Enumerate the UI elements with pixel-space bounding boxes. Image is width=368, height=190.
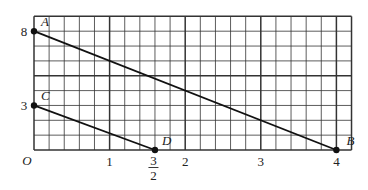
x-tick-label: 1 — [106, 154, 113, 169]
point-label-d: D — [161, 133, 172, 148]
point-c — [31, 102, 37, 108]
coordinate-grid-figure: O ABCD83123432 — [0, 0, 368, 190]
point-b — [333, 147, 339, 153]
axis-labels: O ABCD83123432 — [21, 14, 355, 183]
y-tick-label: 3 — [21, 98, 28, 113]
y-tick-label: 8 — [21, 24, 28, 39]
grid — [34, 16, 352, 150]
x-tick-label: 3 — [258, 154, 265, 169]
fraction-numerator: 3 — [150, 153, 157, 168]
x-tick-label: 2 — [182, 154, 189, 169]
origin-label: O — [22, 153, 32, 168]
point-label-b: B — [346, 133, 354, 148]
fraction-denominator: 2 — [150, 168, 157, 183]
point-label-c: C — [41, 88, 50, 103]
x-tick-label: 4 — [333, 154, 340, 169]
point-label-a: A — [40, 14, 49, 29]
point-a — [31, 28, 37, 34]
